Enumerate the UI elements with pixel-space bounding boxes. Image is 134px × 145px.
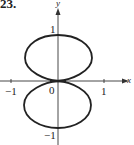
x-axis-label: x xyxy=(127,76,131,85)
tick-label-x-neg1: −1 xyxy=(5,86,17,97)
lower-loop xyxy=(24,81,91,128)
y-axis-arrow-icon xyxy=(56,8,61,15)
origin-label: 0 xyxy=(49,85,55,96)
tick-label-y-neg1: −1 xyxy=(44,130,56,141)
upper-loop xyxy=(25,35,92,81)
y-axis-label: y xyxy=(56,0,60,8)
polar-plot xyxy=(0,0,134,145)
tick-label-x-1: 1 xyxy=(101,86,107,97)
tick-label-y-1: 1 xyxy=(50,24,56,35)
